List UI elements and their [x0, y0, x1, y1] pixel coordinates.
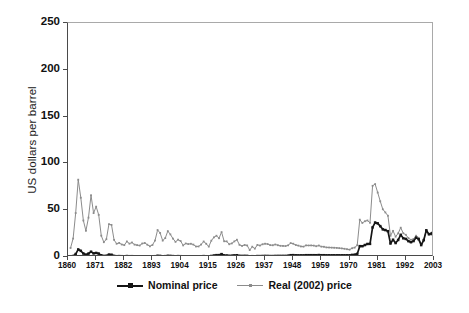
- legend-item-real: Real (2002) price: [237, 279, 351, 291]
- legend-label-real: Real (2002) price: [268, 279, 351, 291]
- chart-legend: Nominal price Real (2002) price: [0, 279, 469, 291]
- y-tick-label: 100: [12, 155, 60, 167]
- x-tick-mark: [208, 256, 209, 260]
- x-tick-mark: [264, 256, 265, 260]
- legend-label-nominal: Nominal price: [148, 279, 217, 291]
- series-real-2002-price: [70, 179, 433, 251]
- x-tick-mark: [151, 256, 152, 260]
- series-canvas: [68, 23, 433, 256]
- x-tick-mark: [349, 256, 350, 260]
- y-tick-label: 0: [12, 249, 60, 261]
- x-tick-mark: [236, 256, 237, 260]
- y-tick-label: 150: [12, 109, 60, 121]
- y-tick-label: 250: [12, 15, 60, 27]
- legend-item-nominal: Nominal price: [117, 279, 217, 291]
- x-tick-mark: [180, 256, 181, 260]
- x-tick-mark: [95, 256, 96, 260]
- y-tick-label: 50: [12, 202, 60, 214]
- x-tick-mark: [433, 256, 434, 260]
- x-tick-mark: [320, 256, 321, 260]
- plot-area: [67, 22, 433, 256]
- x-tick-mark: [67, 256, 68, 260]
- x-tick-mark: [123, 256, 124, 260]
- x-tick-label: 2003: [411, 261, 455, 270]
- x-tick-mark: [377, 256, 378, 260]
- y-tick-label: 200: [12, 62, 60, 74]
- x-tick-mark: [292, 256, 293, 260]
- legend-swatch-real: [237, 281, 263, 290]
- oil-price-chart-figure: US dollars per barrel 050100150200250 18…: [0, 0, 469, 313]
- x-tick-mark: [405, 256, 406, 260]
- legend-swatch-nominal: [117, 281, 143, 290]
- series-nominal-price: [69, 221, 433, 256]
